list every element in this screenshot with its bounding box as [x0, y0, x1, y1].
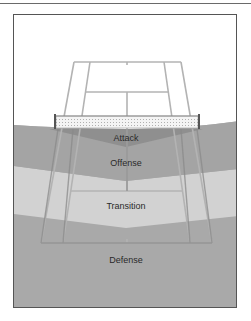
- diagram-frame: Attack Offense Transition Defense: [13, 14, 237, 308]
- label-transition: Transition: [76, 201, 176, 211]
- net: [54, 114, 200, 129]
- net-post-left: [54, 114, 56, 129]
- label-offense: Offense: [76, 158, 176, 168]
- top-rule: [0, 3, 251, 4]
- label-attack: Attack: [76, 133, 176, 143]
- net-post-right: [198, 114, 200, 129]
- label-defense: Defense: [76, 255, 176, 265]
